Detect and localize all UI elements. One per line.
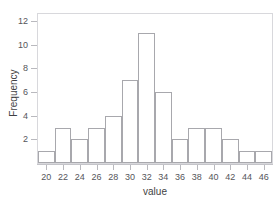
- y-axis-tick: [31, 68, 37, 69]
- x-axis-tick: [264, 165, 265, 170]
- y-axis-tick-label: 2: [23, 135, 28, 144]
- x-axis-tick: [46, 165, 47, 170]
- histogram-bars: [38, 14, 272, 163]
- y-axis-tick: [31, 139, 37, 140]
- histogram-bar: [155, 92, 172, 163]
- x-axis-tick-label: 46: [253, 173, 275, 182]
- y-axis-tick: [31, 21, 37, 22]
- x-axis-line: [37, 164, 273, 165]
- x-axis-tick: [63, 165, 64, 170]
- histogram-bar: [122, 80, 139, 163]
- histogram-bar: [138, 33, 155, 163]
- y-axis-tick-label: 8: [23, 64, 28, 73]
- x-axis-tick: [80, 165, 81, 170]
- histogram-figure: · · · Frequency 24681012 value 202224262…: [0, 0, 280, 211]
- x-axis-tick: [163, 165, 164, 170]
- histogram-bar: [71, 139, 88, 163]
- histogram-bar: [222, 139, 239, 163]
- x-axis-tick: [180, 165, 181, 170]
- x-axis-tick: [230, 165, 231, 170]
- x-axis-tick: [113, 165, 114, 170]
- y-axis-tick: [31, 116, 37, 117]
- y-axis-tick-label: 10: [18, 40, 28, 49]
- histogram-bar: [239, 151, 256, 163]
- y-axis-tick-label: 6: [23, 88, 28, 97]
- y-axis-title: Frequency: [9, 53, 19, 133]
- histogram-bar: [105, 116, 122, 163]
- x-axis-tick: [130, 165, 131, 170]
- x-axis-tick: [97, 165, 98, 170]
- histogram-bar: [55, 128, 72, 163]
- histogram-bar: [88, 128, 105, 163]
- x-axis: value 2022242628303234363840424446: [0, 164, 280, 211]
- histogram-bar: [172, 139, 189, 163]
- clipped-title-text: · · ·: [60, 0, 275, 3]
- x-axis-title: value: [37, 186, 273, 197]
- histogram-bar: [205, 128, 222, 163]
- x-axis-tick: [147, 165, 148, 170]
- x-axis-tick: [214, 165, 215, 170]
- histogram-bar: [255, 151, 272, 163]
- plot-area: [38, 14, 272, 163]
- x-axis-tick: [197, 165, 198, 170]
- histogram-bar: [188, 128, 205, 163]
- y-axis-tick-label: 12: [18, 17, 28, 26]
- y-axis-tick-label: 4: [23, 111, 28, 120]
- y-axis-tick: [31, 45, 37, 46]
- histogram-bar: [38, 151, 55, 163]
- x-axis-tick: [247, 165, 248, 170]
- y-axis-tick: [31, 92, 37, 93]
